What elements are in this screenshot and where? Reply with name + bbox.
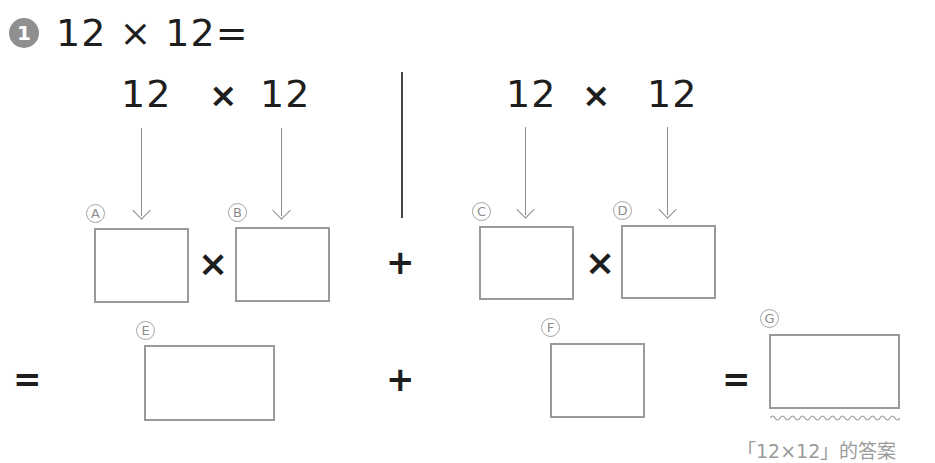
label-c: C: [472, 202, 491, 221]
plus-sign-row2: +: [386, 245, 415, 279]
answer-box-e[interactable]: [144, 345, 275, 421]
label-a: A: [86, 204, 105, 223]
problem-expression: 12 × 12=: [56, 14, 249, 52]
times-cd-sign: ×: [585, 245, 615, 281]
equals-sign-left: =: [13, 362, 42, 396]
right-times-sign: ×: [582, 78, 611, 112]
equals-sign-right: =: [722, 362, 751, 396]
arrowhead-down-icon: [272, 201, 290, 219]
label-g: G: [760, 309, 779, 328]
factor-b-text: 12: [260, 75, 310, 113]
label-b: B: [228, 203, 247, 222]
label-d: D: [613, 201, 632, 220]
arrowhead-down-icon: [132, 201, 150, 219]
answer-caption: 「12×12」的答案: [737, 436, 896, 463]
answer-box-c[interactable]: [479, 226, 574, 300]
answer-box-b[interactable]: [235, 227, 330, 302]
factor-a-text: 12: [121, 75, 171, 113]
answer-box-d[interactable]: [621, 225, 716, 299]
plus-sign-row3: +: [386, 362, 415, 396]
arrowhead-down-icon: [516, 200, 534, 218]
group-divider: [401, 72, 403, 218]
factor-d-text: 12: [647, 75, 697, 113]
arrowhead-down-icon: [658, 200, 676, 218]
answer-box-a[interactable]: [94, 228, 189, 303]
label-f: F: [541, 318, 560, 337]
answer-box-g[interactable]: [769, 334, 900, 409]
label-e: E: [136, 321, 155, 340]
wavy-underline-icon: [770, 414, 900, 422]
answer-box-f[interactable]: [550, 343, 645, 418]
factor-c-text: 12: [506, 75, 556, 113]
left-times-sign: ×: [209, 78, 238, 112]
problem-number: 1: [17, 23, 31, 43]
times-ab-sign: ×: [198, 246, 228, 282]
problem-number-badge: 1: [9, 18, 39, 48]
